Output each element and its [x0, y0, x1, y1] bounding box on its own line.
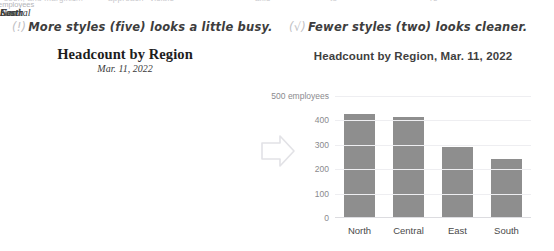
x-axis-label-east: East [434, 225, 481, 236]
bar-north [344, 114, 374, 218]
bar-south [491, 159, 521, 218]
gridline [335, 169, 531, 170]
gridline [335, 96, 531, 97]
gridline [335, 145, 531, 146]
gridline [335, 194, 531, 195]
annotation-clean-text: Fewer styles (two) looks cleaner. [308, 20, 527, 34]
y-axis-tick-label: 0 [324, 213, 329, 223]
chart-subtitle-left: Mar. 11, 2022 [0, 63, 250, 74]
bar-slot [483, 96, 530, 218]
x-axis-label-central: Central [385, 225, 432, 236]
x-axis-line [335, 217, 531, 218]
bar-group-right [335, 96, 531, 218]
bar-central [393, 117, 423, 218]
right-arrow-icon [258, 132, 298, 170]
warning-icon: (!) [12, 20, 26, 34]
x-axis-label-north: North [336, 225, 383, 236]
chart-title-left: Headcount by Region [0, 46, 250, 63]
y-axis-tick-label: 400 [315, 115, 329, 125]
bar-slot [434, 96, 481, 218]
y-axis-tick-label: 100 [315, 189, 329, 199]
annotation-busy: (!)More styles (five) looks a little bus… [12, 20, 273, 34]
chart-plot-right: NorthCentralEastSouth 500 employees40030… [335, 96, 531, 218]
x-axis-label-south: South [483, 225, 530, 236]
bar-slot [336, 96, 383, 218]
y-axis-unit-label: employees [0, 0, 34, 9]
gridline [335, 120, 531, 121]
check-icon: (√) [289, 20, 306, 34]
bar-slot [385, 96, 432, 218]
y-axis-tick-label: 300 [315, 140, 329, 150]
y-axis-tick-label: 200 [315, 164, 329, 174]
x-axis-labels-right: NorthCentralEastSouth [335, 225, 531, 236]
annotation-busy-text: More styles (five) looks a little busy. [28, 20, 273, 34]
panel-busy-version: (!)More styles (five) looks a little bus… [0, 0, 277, 251]
bar-east [442, 147, 472, 218]
annotation-clean: (√)Fewer styles (two) looks cleaner. [289, 20, 527, 34]
y-axis-tick-label: 500 employees [271, 91, 329, 101]
chart-title-right: Headcount by Region, Mar. 11, 2022 [287, 50, 539, 62]
panel-clean-version: (√)Fewer styles (two) looks cleaner. Hea… [277, 0, 554, 251]
